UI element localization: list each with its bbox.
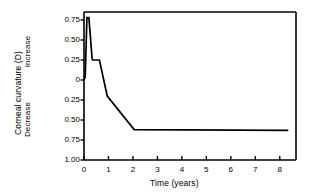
plot-area [0,0,317,193]
data-series-line [84,18,288,131]
chart-figure: Corneal curvature (D) Increase Decrease … [0,0,317,193]
plot-frame [84,12,296,160]
data-series-group [84,18,288,131]
axis-tick-marks [81,20,280,160]
